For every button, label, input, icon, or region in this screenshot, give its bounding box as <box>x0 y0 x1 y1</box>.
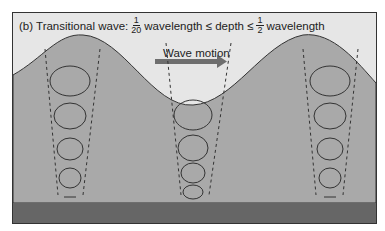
frac1-denominator: 20 <box>131 26 141 35</box>
title-mid: wavelength ≤ depth ≤ <box>144 20 253 32</box>
diagram-frame: (b) Transitional wave: 1 20 wavelength ≤… <box>12 12 377 224</box>
title-suffix: wavelength <box>267 20 325 32</box>
wave-diagram <box>13 13 376 223</box>
diagram-title: (b) Transitional wave: 1 20 wavelength ≤… <box>19 16 325 35</box>
seabed <box>13 203 376 223</box>
frac2-denominator: 2 <box>257 26 262 35</box>
wave-motion-label: Wave motion <box>163 47 230 59</box>
title-prefix: (b) Transitional wave: <box>19 20 128 32</box>
wave-motion-arrow-shaft <box>155 59 217 64</box>
fraction-one-twentieth: 1 20 <box>131 16 141 35</box>
fraction-one-half: 1 2 <box>256 16 263 35</box>
